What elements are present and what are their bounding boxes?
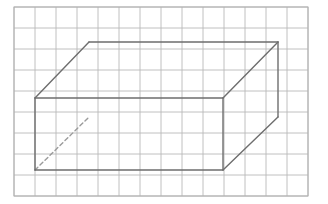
figure-container <box>0 0 328 204</box>
figure-background <box>0 0 328 204</box>
rectangular-prism-figure <box>0 0 328 204</box>
